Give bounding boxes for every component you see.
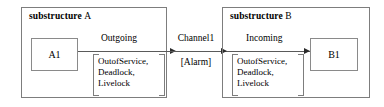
substructure-a-title: substructure A [29,11,91,22]
constraint-item: OutofService, [237,56,300,67]
constraint-item: Livelock [98,78,161,89]
constraints-outgoing: OutofService, Deadlock, Livelock [93,54,165,96]
connector-channel [167,51,227,52]
constraints-incoming: OutofService, Deadlock, Livelock [232,54,304,96]
connector-a1-to-channel [78,51,175,52]
substructure-a-name: A [84,11,91,21]
constraint-item: OutofService, [98,56,161,67]
port-label-incoming: Incoming [246,33,282,44]
channel-name-label: Channel1 [172,33,220,44]
substructure-a-keyword: substructure [29,11,82,21]
constraint-item: Livelock [237,78,300,89]
component-a1[interactable]: A1 [31,38,78,71]
channel-annotation-label: [Alarm] [172,57,220,68]
substructure-b-keyword: substructure [230,11,283,21]
component-b1-label: B1 [328,49,340,60]
port-label-outgoing: Outgoing [101,33,137,44]
substructure-b-title: substructure B [230,11,292,22]
component-b1[interactable]: B1 [310,38,358,71]
constraint-item: Deadlock, [98,67,161,78]
component-communication-diagram: substructure A A1 Outgoing OutofService,… [0,0,384,107]
component-a1-label: A1 [48,49,60,60]
substructure-b-name: B [285,11,291,21]
constraint-item: Deadlock, [237,67,300,78]
connector-channel-to-b1 [227,51,310,52]
